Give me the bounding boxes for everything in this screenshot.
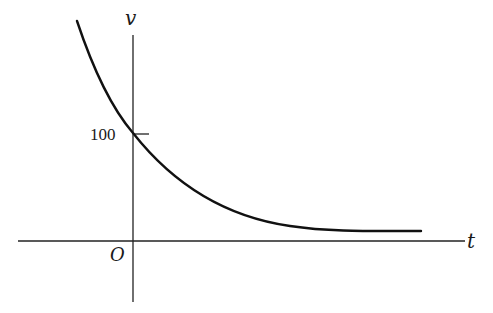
chart-canvas (0, 0, 493, 313)
y-axis-label: v (125, 8, 136, 28)
x-axis-label: t (467, 231, 475, 251)
curve-v-of-t (77, 21, 421, 231)
y-tick-label-100: 100 (90, 126, 116, 143)
origin-label: O (110, 246, 125, 264)
